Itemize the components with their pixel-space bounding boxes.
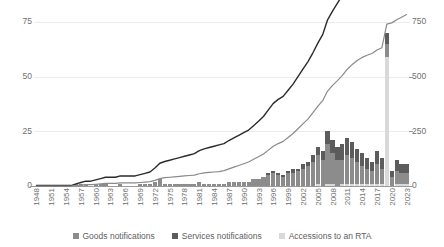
x-axis-tick-label: 1963 [106, 188, 115, 206]
x-axis-tick-label: 2023 [403, 188, 412, 206]
x-axis-tick-label: 2011 [343, 188, 352, 205]
axis-baseline [34, 186, 409, 187]
x-axis-tick-label: 2008 [329, 188, 338, 206]
x-axis-tick-label: 1993 [255, 188, 264, 206]
y-axis-left-tick-25: 25 [23, 127, 32, 136]
x-axis-tick-label: 2005 [314, 188, 323, 206]
legend-label-accessions: Accessions to an RTA [289, 231, 372, 241]
y-axis-left-tick-50: 50 [23, 72, 32, 81]
tickmark-right-500 [409, 77, 413, 78]
line-group [34, 22, 409, 186]
x-axis-tick-label: 2002 [299, 188, 308, 206]
legend-label-goods: Goods notifications [83, 231, 155, 241]
x-axis-tick-label: 1975 [166, 188, 175, 206]
x-axis-tick-label: 1996 [269, 188, 278, 206]
x-axis-tick-label: 1990 [240, 188, 249, 206]
legend-swatch-goods [73, 233, 79, 239]
x-axis-tick-label: 1957 [77, 188, 86, 206]
x-axis-tick-label: 1999 [284, 188, 293, 206]
y-axis-right-tick-500: 500 [412, 72, 426, 81]
x-axis-tick-label: 1948 [32, 188, 41, 206]
plot-area [34, 22, 409, 186]
x-axis-labels: 1948195119541957196019631966196919721975… [34, 188, 409, 222]
y-axis-right-tick-250: 250 [412, 127, 426, 136]
x-axis-tick-label: 1966 [121, 188, 130, 206]
x-axis-tick-label: 2020 [388, 188, 397, 206]
x-axis-tick-label: 2017 [373, 188, 382, 206]
tickmark-right-250 [409, 131, 413, 132]
y-axis-left-tick-75: 75 [23, 17, 32, 26]
x-axis-tick-label: 1972 [151, 188, 160, 206]
x-axis-tick-label: 1984 [210, 188, 219, 206]
x-axis-tick-label: 1951 [47, 188, 56, 206]
legend-item-services: Services notifications [172, 231, 262, 241]
chart-legend: Goods notifications Services notificatio… [0, 231, 444, 241]
x-axis-tick-label: 1954 [62, 188, 71, 206]
x-axis-tick-label: 1987 [225, 188, 234, 206]
x-axis-tick-label: 1969 [136, 188, 145, 206]
x-axis-tick-label: 1960 [92, 188, 101, 206]
chart-container: 75 50 25 0 750 500 250 0 194819511954195… [0, 0, 444, 247]
x-axis-tick-label: 1978 [180, 188, 189, 206]
legend-swatch-services [172, 233, 178, 239]
legend-item-accessions: Accessions to an RTA [279, 231, 372, 241]
legend-item-goods: Goods notifications [73, 231, 155, 241]
y-axis-right-tick-750: 750 [412, 17, 426, 26]
x-axis-tick-label: 1981 [195, 188, 204, 206]
legend-label-services: Services notifications [182, 231, 262, 241]
legend-swatch-accessions [279, 233, 285, 239]
line-cumulative-in-force [36, 15, 406, 186]
line-cumulative-total [36, 0, 406, 186]
x-axis-tick-label: 2014 [358, 188, 367, 206]
